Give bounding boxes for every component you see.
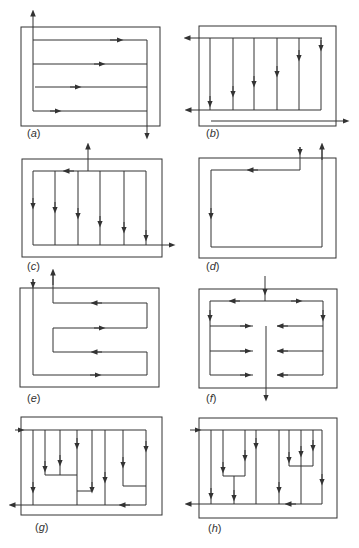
panel-label-e: (e) — [27, 392, 40, 404]
flow-layouts-diagram — [0, 0, 359, 548]
panel-e — [20, 272, 159, 387]
panel-label-a: (a) — [27, 127, 40, 139]
panel-a — [21, 13, 160, 136]
panel-label-f: (f) — [206, 392, 216, 404]
boundary-rect — [199, 26, 336, 126]
panel-label-h: (h) — [208, 522, 221, 534]
boundary-rect — [199, 289, 337, 388]
panel-label-c: (c) — [27, 260, 40, 272]
panel-g — [12, 417, 162, 515]
panel-label-g: (g) — [35, 521, 48, 533]
panel-f — [199, 276, 337, 398]
boundary-rect — [199, 418, 337, 518]
panel-h — [188, 418, 337, 518]
boundary-rect — [22, 159, 162, 257]
panel-c — [22, 146, 172, 257]
panel-label-b: (b) — [206, 127, 219, 139]
panel-d — [199, 146, 336, 258]
panel-label-d: (d) — [206, 260, 219, 272]
boundary-rect — [199, 158, 336, 258]
panel-b — [187, 26, 346, 126]
